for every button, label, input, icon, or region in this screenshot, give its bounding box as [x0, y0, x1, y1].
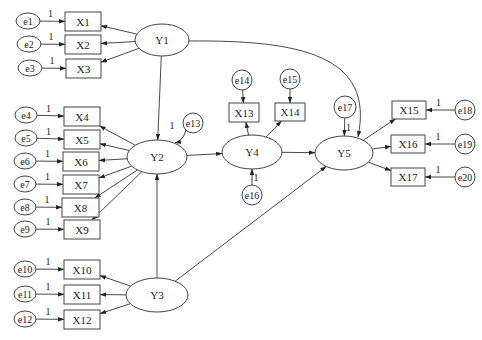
loading-arrow-Y3-X10 [100, 276, 131, 286]
coefficient-label: 1 [45, 256, 50, 267]
node-label: e1 [23, 16, 32, 27]
coefficient-label: 1 [436, 97, 441, 108]
loading-arrow-Y5-X17 [368, 162, 391, 170]
error-term-e13: e13 [183, 113, 203, 133]
observed-variable-X10: X10 [64, 260, 100, 279]
observed-variable-X11: X11 [64, 285, 100, 304]
loading-arrow-Y1-X2 [101, 42, 135, 44]
error-term-e17: e17 [334, 96, 356, 118]
error-term-e6: e6 [14, 153, 36, 169]
observed-variable-X16: X16 [391, 135, 425, 153]
coefficient-label: 1 [436, 164, 441, 175]
node-label: Y2 [150, 151, 163, 163]
coefficient-label: 1 [45, 171, 50, 182]
error-term-e10: e10 [14, 261, 36, 277]
observed-variable-X14: X14 [275, 103, 305, 121]
observed-variable-X13: X13 [229, 103, 259, 122]
error-term-e4: e4 [15, 107, 37, 123]
node-label: e19 [458, 139, 472, 150]
coefficient-label: 1 [48, 8, 53, 19]
node-label: e4 [21, 110, 30, 121]
coefficient-label: 1 [48, 31, 53, 42]
node-label: X10 [73, 264, 92, 276]
node-label: e14 [235, 75, 249, 86]
coefficient-label: 1 [45, 148, 50, 159]
coefficient-label: 1 [44, 194, 49, 205]
node-label: Y3 [150, 289, 164, 301]
path-arrow-Y2-Y4 [187, 154, 222, 156]
node-label: e8 [20, 202, 29, 213]
path-arrow-Y1-Y2 [158, 56, 162, 140]
error-arrow-e13 [175, 130, 186, 143]
nodes-layer: 111111111111111111Y1Y2Y3Y4Y5X1X2X3X4X5X6… [14, 8, 475, 329]
latent-variable-Y2: Y2 [127, 140, 187, 174]
loading-arrow-Y4-X13 [246, 122, 249, 135]
node-label: X8 [74, 202, 88, 214]
error-term-e9: e9 [14, 221, 36, 237]
error-term-e1: e1 [16, 13, 40, 29]
node-label: X3 [77, 63, 91, 75]
observed-variable-X7: X7 [63, 175, 99, 194]
error-arrow-e4 [37, 115, 64, 116]
latent-variable-Y1: Y1 [135, 24, 189, 56]
coefficient-label: 1 [49, 55, 54, 66]
loading-arrow-Y4-X14 [266, 121, 281, 137]
node-label: X6 [74, 156, 88, 168]
coefficient-label: 1 [346, 122, 351, 133]
error-term-e8: e8 [14, 199, 36, 215]
observed-variable-X15: X15 [392, 101, 426, 119]
node-label: e15 [283, 74, 297, 85]
node-label: X7 [74, 179, 88, 191]
error-term-e20: e20 [455, 167, 475, 187]
coefficient-label: 1 [46, 126, 51, 137]
observed-variable-X2: X2 [65, 35, 101, 54]
node-label: e6 [20, 156, 29, 167]
observed-variable-X9: X9 [64, 220, 100, 239]
node-label: e12 [18, 314, 32, 325]
loading-arrow-Y2-X4 [100, 126, 136, 145]
latent-variable-Y3: Y3 [126, 278, 188, 312]
coefficient-label: 1 [45, 281, 50, 292]
node-label: Y5 [337, 147, 351, 159]
node-label: Y4 [245, 146, 259, 158]
error-term-e5: e5 [15, 130, 37, 146]
loading-arrow-Y3-X12 [100, 304, 130, 314]
sem-path-diagram: 111111111111111111Y1Y2Y3Y4Y5X1X2X3X4X5X6… [0, 0, 482, 340]
loading-arrow-Y1-X1 [101, 26, 137, 34]
node-label: X4 [75, 111, 89, 123]
observed-variable-X4: X4 [64, 107, 100, 126]
node-label: e16 [245, 190, 259, 201]
node-label: X5 [75, 134, 89, 146]
node-label: e11 [18, 289, 32, 300]
error-term-e18: e18 [455, 100, 475, 120]
loading-arrow-Y2-X6 [99, 159, 127, 161]
coefficient-label: 1 [170, 120, 175, 131]
node-label: X12 [73, 314, 92, 326]
path-arrow-Y3-Y5 [175, 166, 326, 281]
observed-variable-X1: X1 [65, 12, 101, 31]
coefficient-label: 1 [46, 103, 51, 114]
path-arrow-Y1-Y5-curved [189, 41, 360, 137]
observed-variable-X3: X3 [66, 59, 101, 78]
loading-arrow-Y2-X5 [100, 144, 129, 151]
error-term-e3: e3 [18, 60, 42, 76]
node-label: e2 [24, 39, 33, 50]
loading-arrow-Y5-X16 [372, 146, 391, 149]
error-arrow-e14 [243, 90, 244, 103]
loading-arrow-Y2-X7 [99, 166, 132, 178]
error-term-e11: e11 [14, 286, 36, 302]
node-label: e17 [338, 102, 352, 113]
node-label: X9 [75, 224, 89, 236]
node-label: X17 [399, 171, 418, 183]
observed-variable-X8: X8 [62, 198, 99, 217]
coefficient-label: 1 [254, 172, 259, 183]
coefficient-label: 1 [436, 131, 441, 142]
node-label: X13 [235, 107, 254, 119]
node-label: e10 [18, 264, 32, 275]
latent-variable-Y5: Y5 [315, 136, 373, 170]
error-term-e19: e19 [455, 134, 475, 154]
error-arrow-e5 [37, 138, 64, 139]
node-label: e7 [20, 179, 29, 190]
node-label: e5 [21, 133, 30, 144]
observed-variable-X12: X12 [64, 310, 100, 329]
